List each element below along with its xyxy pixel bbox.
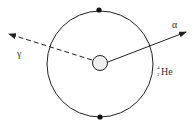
alpha-ray-arrow [108, 32, 186, 62]
electron-bottom [97, 114, 102, 119]
gamma-ray-arrow [9, 34, 92, 60]
svg-text:2: 2 [157, 72, 160, 77]
helium-label: 4 2 He [157, 65, 173, 77]
gamma-label: γ [16, 48, 22, 59]
nucleus-circle [93, 56, 108, 71]
electron-top [96, 7, 101, 12]
atom-diagram: α γ 4 2 He [0, 0, 194, 129]
svg-text:He: He [161, 66, 173, 77]
svg-text:4: 4 [157, 65, 160, 70]
alpha-label: α [172, 19, 178, 30]
